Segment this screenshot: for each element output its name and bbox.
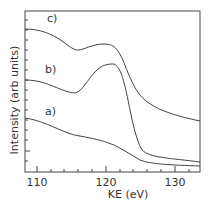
x-tick-110: 110 (27, 176, 48, 189)
y-axis-ticks (25, 20, 30, 161)
spectrum-chart: 110 120 130 KE (eV) Intensity (arb units… (0, 0, 211, 205)
x-tick-130: 130 (165, 176, 186, 189)
x-axis-ticks (37, 166, 189, 172)
series-label-b: b) (45, 63, 56, 76)
y-axis-title: Intensity (arb units) (8, 46, 21, 155)
x-axis-title: KE (eV) (108, 188, 149, 201)
series-label-c: c) (47, 12, 57, 25)
series-label-a: a) (45, 105, 56, 118)
